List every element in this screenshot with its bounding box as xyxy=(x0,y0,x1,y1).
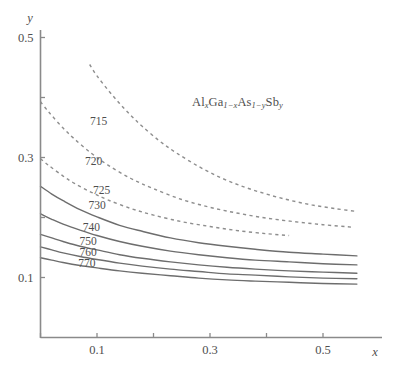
curve-725 xyxy=(41,159,290,236)
curve-label-715: 715 xyxy=(90,115,108,127)
formula-as-sub: 1−y xyxy=(252,100,266,110)
ticks-layer xyxy=(41,38,324,338)
curve-label-720: 720 xyxy=(85,155,103,167)
formula-al: Al xyxy=(192,95,205,109)
x-tick-label-0.1: 0.1 xyxy=(89,343,105,357)
formula-ga: Ga xyxy=(209,95,224,109)
curve-label-730: 730 xyxy=(88,199,106,211)
formula-sb: Sb xyxy=(266,95,279,109)
composition-formula-annotation: AlxGa1−xAs1−ySby xyxy=(192,95,283,110)
x-tick-label-0.5: 0.5 xyxy=(315,343,331,357)
formula-ga-sub: 1−x xyxy=(223,100,237,110)
tick-labels-layer: 0.10.30.50.10.30.5 xyxy=(18,31,331,357)
curve-715 xyxy=(90,65,357,212)
curve-labels-layer: 715720725730740750760770 xyxy=(78,115,110,269)
curve-label-725: 725 xyxy=(93,184,111,196)
y-tick-label-0.5: 0.5 xyxy=(18,31,34,45)
formula-sb-sub: y xyxy=(279,100,283,110)
plot-canvas: 0.10.30.50.10.30.5 715720725730740750760… xyxy=(0,0,394,370)
x-tick-label-0.3: 0.3 xyxy=(202,343,218,357)
formula-as: As xyxy=(237,95,251,109)
y-tick-label-0.3: 0.3 xyxy=(18,151,34,165)
axes-layer xyxy=(41,30,383,338)
chart-figure: 0.10.30.50.10.30.5 715720725730740750760… xyxy=(0,0,394,370)
curve-label-740: 740 xyxy=(83,221,101,233)
curve-label-770: 770 xyxy=(78,257,96,269)
y-tick-label-0.1: 0.1 xyxy=(18,271,34,285)
y-axis-label: y xyxy=(25,11,33,25)
x-axis-label: x xyxy=(371,345,378,359)
